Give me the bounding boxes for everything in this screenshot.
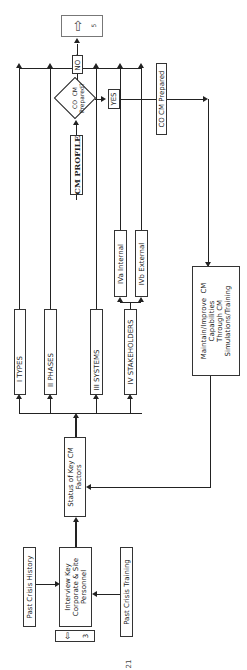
stakeholders-box: IV STAKEHOLDERS (124, 309, 137, 395)
connector-line (75, 522, 77, 547)
co-cm-prepared-label: CO CM Prepared (158, 70, 166, 127)
connector-line (75, 418, 77, 437)
connector-line (76, 124, 77, 135)
past-crisis-history-label: Past Crisis History (26, 556, 34, 619)
arrow-left-icon: ⇩ (64, 631, 72, 642)
systems-label: III SYSTEMS (93, 350, 101, 391)
arrow-left-icon (92, 591, 97, 597)
external-box: IVb External (135, 230, 148, 297)
status-label: Status of Key CM Factors (67, 447, 83, 506)
no-box: NO (72, 55, 83, 74)
systems-box: III SYSTEMS (90, 309, 103, 395)
co-cm-prepared-box: CO CM Prepared (156, 63, 167, 135)
decision-label: CO CM Prepared? (71, 83, 85, 113)
connector-line (50, 68, 51, 309)
past-crisis-history-box: Past Crisis History (23, 547, 36, 627)
connector-line (89, 487, 211, 488)
maintain-box: Maintain/Improve CM Capabilities Through… (192, 266, 240, 376)
connector-3-box: 3 ⇩ (55, 630, 95, 642)
arrow-up-outline-icon: ⇧ (72, 18, 84, 34)
past-crisis-training-box: Past Crisis Training (120, 547, 133, 637)
interview-box: Interview Key Corporate & Site Personnel (59, 547, 92, 627)
arrow-up-icon (117, 63, 123, 68)
connector-line (141, 68, 142, 230)
connector-line (130, 302, 131, 309)
connector-line (95, 594, 120, 595)
external-label: IVb External (138, 242, 146, 285)
stakeholders-label: IV STAKEHOLDERS (127, 320, 135, 385)
connector-line (76, 195, 77, 200)
arrow-up-icon (16, 63, 22, 68)
cm-profile-label: CM PROFILE (73, 136, 81, 195)
arrow-up-icon (138, 297, 144, 302)
connector-5-box: ⇧ 5 (61, 15, 103, 37)
arrow-up-icon (138, 63, 144, 68)
yes-box: YES (108, 89, 120, 109)
connector-line (208, 99, 209, 279)
arrow-up-icon (73, 517, 79, 522)
arrow-up-icon (74, 38, 80, 43)
connector-5-label: 5 (90, 24, 97, 28)
arrow-up-icon (93, 63, 99, 68)
phases-label: II PHASES (47, 354, 55, 388)
phases-box: II PHASES (44, 309, 57, 395)
factor-bus-line (19, 413, 142, 414)
connector-line (120, 68, 121, 230)
arrow-left-icon (86, 484, 91, 490)
maintain-label: Maintain/Improve CM Capabilities Through… (200, 283, 232, 360)
status-box: Status of Key CM Factors (64, 437, 86, 517)
no-label: NO (74, 59, 82, 70)
connector-line (210, 376, 211, 487)
connector-line (120, 302, 141, 303)
connector-line (50, 397, 51, 413)
arrow-up-icon (117, 297, 123, 302)
arrow-up-icon (47, 63, 53, 68)
types-box: I TYPES (14, 309, 26, 395)
connector-line (96, 397, 97, 413)
internal-box: IVa Internal (114, 230, 127, 297)
types-label: I TYPES (16, 356, 24, 382)
connector-line (19, 68, 20, 309)
yes-label: YES (110, 92, 118, 105)
connector-line (96, 68, 97, 309)
page-number: 21 (125, 660, 133, 669)
connector-line (36, 584, 56, 585)
interview-label: Interview Key Corporate & Site Personnel (64, 558, 88, 616)
connector-line (19, 397, 20, 413)
arrow-right-icon (101, 96, 106, 102)
internal-label: IVa Internal (117, 244, 125, 284)
cm-profile-box: CM PROFILE (70, 135, 83, 195)
connector-3-label: 3 (82, 634, 90, 638)
arrow-up-icon (73, 120, 79, 125)
connector-line (130, 397, 131, 413)
past-crisis-training-label: Past Crisis Training (123, 559, 131, 625)
